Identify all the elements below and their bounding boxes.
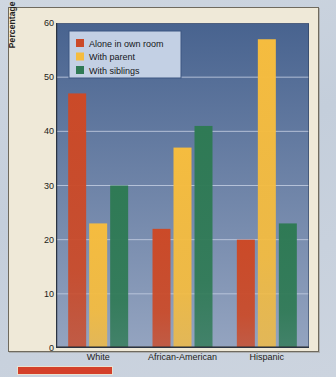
bar: [153, 229, 171, 348]
legend: Alone in own roomWith parentWith sibling…: [69, 31, 181, 78]
legend-swatch: [76, 53, 84, 61]
legend-swatch: [76, 39, 84, 47]
bar: [89, 223, 107, 348]
y-tick-label: 20: [32, 235, 54, 245]
y-tick-label: 30: [32, 181, 54, 191]
x-tick-label: Hispanic: [225, 352, 309, 368]
x-tick-label: African-American: [140, 352, 224, 368]
y-axis-title-label: Percentage of 3-Year-Olds: [7, 0, 17, 74]
y-tick-label: 50: [32, 72, 54, 82]
bar-chart: Alone in own roomWith parentWith sibling…: [56, 23, 309, 348]
bar: [195, 126, 213, 348]
y-axis-title: Percentage of 3-Year-Olds: [7, 0, 17, 74]
bar: [110, 186, 128, 349]
figure-panel: Percentage of 3-Year-Olds 0102030405060 …: [8, 7, 319, 352]
bar: [258, 39, 276, 348]
y-tick-label: 10: [32, 289, 54, 299]
y-tick-label: 0: [32, 343, 54, 353]
y-axis-tick-labels: 0102030405060: [24, 23, 54, 348]
legend-label: With parent: [89, 52, 136, 62]
bar: [279, 223, 297, 348]
bar: [68, 93, 86, 348]
plot-area: Alone in own roomWith parentWith sibling…: [56, 23, 309, 348]
caption-rule: [17, 366, 113, 375]
y-tick-label: 60: [32, 18, 54, 28]
legend-swatch: [76, 66, 84, 74]
legend-label: Alone in own room: [89, 39, 164, 49]
legend-label: With siblings: [89, 66, 140, 76]
bar: [174, 148, 192, 348]
bar: [237, 240, 255, 348]
y-tick-label: 40: [32, 126, 54, 136]
